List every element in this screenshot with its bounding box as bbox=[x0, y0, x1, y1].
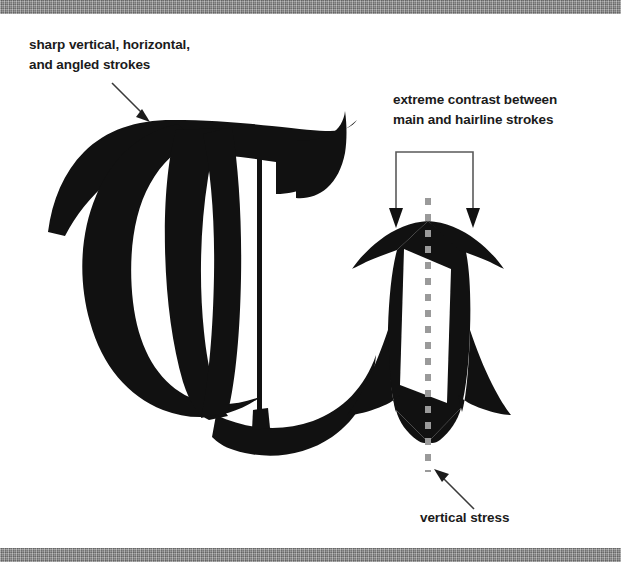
arrow-sharp-strokes bbox=[112, 83, 150, 122]
t-hairline-stem bbox=[257, 140, 262, 422]
t-top-bar bbox=[48, 120, 357, 236]
t-left-bowl bbox=[82, 124, 262, 417]
bottom-texture-band bbox=[0, 548, 621, 562]
t-right-flourish bbox=[296, 111, 347, 198]
figure-artwork bbox=[0, 0, 621, 562]
bracket-arrow-right bbox=[466, 208, 480, 228]
bracket-extreme-contrast bbox=[389, 152, 480, 228]
o-bottom-apex bbox=[428, 408, 461, 443]
bracket-arrow-left bbox=[389, 208, 403, 228]
o-left-shoulder bbox=[352, 221, 428, 269]
top-texture-band bbox=[0, 0, 621, 14]
blackletter-lowercase-o bbox=[347, 221, 511, 443]
o-counter bbox=[400, 249, 451, 403]
t-hairline-foot bbox=[252, 408, 270, 430]
t-main-stem bbox=[201, 127, 241, 418]
o-outer-body bbox=[388, 221, 471, 442]
caption-vertical-stress: vertical stress bbox=[420, 508, 509, 528]
caption-sharp-strokes: sharp vertical, horizontal, and angled s… bbox=[29, 35, 190, 75]
t-bottom-tail bbox=[212, 355, 376, 456]
o-right-shoulder bbox=[428, 221, 504, 269]
blackletter-capital-t bbox=[48, 111, 376, 456]
typography-anatomy-figure: sharp vertical, horizontal, and angled s… bbox=[0, 0, 621, 562]
o-left-foot bbox=[347, 330, 400, 415]
caption-extreme-contrast: extreme contrast between main and hairli… bbox=[393, 90, 557, 130]
arrow-vertical-stress bbox=[434, 469, 474, 509]
o-bottom-apex-left bbox=[396, 410, 428, 443]
t-bowl-main-stroke bbox=[165, 128, 228, 420]
o-right-foot bbox=[458, 330, 511, 415]
